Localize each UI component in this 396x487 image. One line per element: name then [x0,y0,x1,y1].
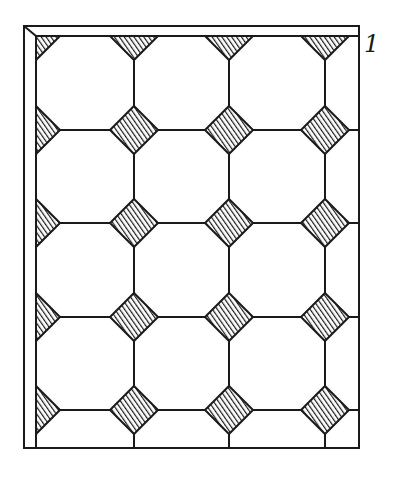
hatched-diamond-tile [301,199,349,247]
outer-frame [24,26,359,448]
hatched-diamond-tile [110,293,158,341]
hatched-diamond-tile [205,293,253,341]
tile-pattern-drawing [0,0,396,487]
hatched-diamond-tile [301,386,349,434]
hatched-diamond-tile [205,386,253,434]
hatched-diamond-tile [301,106,349,154]
hatched-diamond-tile [205,199,253,247]
hatched-diamond-tile [301,293,349,341]
hatched-diamond-tile [110,106,158,154]
hatched-diamond-tile [205,106,253,154]
hatched-diamond-tile [110,386,158,434]
figure-number-label: 1 [364,30,379,58]
frame-corner-miter [24,26,36,36]
hatched-diamond-tile [110,199,158,247]
